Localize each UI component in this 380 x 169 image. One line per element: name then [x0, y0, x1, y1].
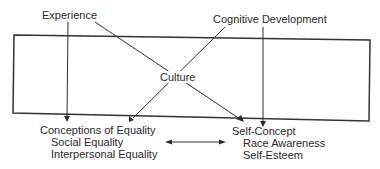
node-experience: Experience: [42, 9, 97, 21]
arrowhead-left: [165, 140, 172, 145]
node-social-equality: Social Equality: [51, 136, 123, 148]
node-self-concept: Self-Concept: [232, 125, 296, 137]
node-culture: Culture: [160, 71, 195, 83]
arrowhead-conceptions-from-cognitive: [129, 116, 134, 122]
arrowhead-conceptions-from-experience: [64, 116, 70, 122]
node-conceptions-of-equality: Conceptions of Equality: [40, 124, 156, 136]
node-cognitive-development: Cognitive Development: [213, 13, 327, 25]
node-race-awareness: Race Awareness: [243, 137, 325, 149]
arrowhead-right: [219, 140, 226, 145]
node-self-esteem: Self-Esteem: [243, 149, 303, 161]
node-interpersonal-equality: Interpersonal Equality: [51, 148, 157, 160]
